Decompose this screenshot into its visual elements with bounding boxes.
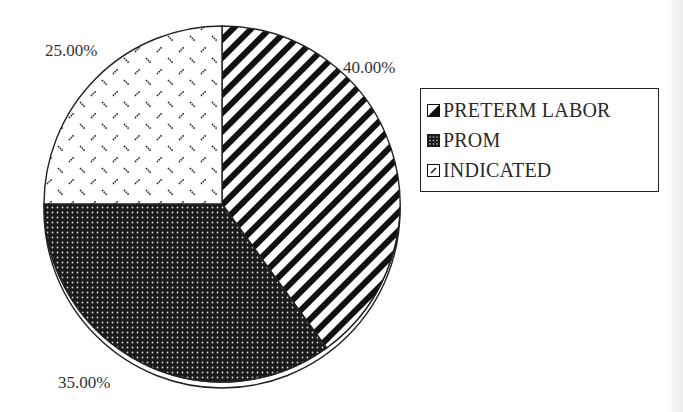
dash-swatch-icon bbox=[427, 164, 440, 177]
label-preterm-pct: 40.00% bbox=[343, 58, 395, 78]
legend-label: INDICATED bbox=[443, 159, 551, 182]
dotted-black-swatch-icon bbox=[427, 134, 440, 147]
legend-item-prom[interactable]: PROM bbox=[427, 125, 658, 155]
diagonal-stripe-swatch-icon bbox=[427, 104, 440, 117]
pie-chart bbox=[0, 0, 683, 412]
legend-item-preterm-labor[interactable]: PRETERM LABOR bbox=[427, 95, 658, 125]
label-indicated-pct: 25.00% bbox=[45, 41, 97, 61]
legend-item-indicated[interactable]: INDICATED bbox=[427, 155, 658, 185]
chart-legend: PRETERM LABOR PROM INDICATED bbox=[420, 88, 659, 192]
legend-label: PROM bbox=[443, 129, 501, 152]
scan-edge-shadow bbox=[665, 0, 683, 412]
label-prom-pct: 35.00% bbox=[58, 373, 110, 393]
legend-label: PRETERM LABOR bbox=[443, 99, 611, 122]
